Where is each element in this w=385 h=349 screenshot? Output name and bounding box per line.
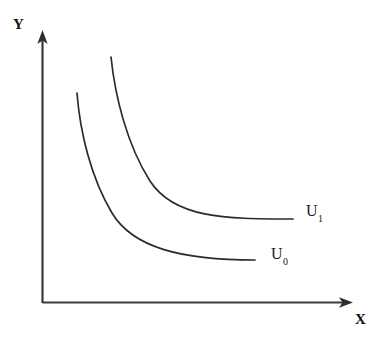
curve-label-u0-subscript: 0	[283, 256, 288, 267]
y-axis	[37, 30, 47, 303]
chart-canvas	[0, 0, 385, 349]
curve-label-u1-subscript: 1	[318, 213, 323, 224]
y-axis-label: Y	[13, 17, 24, 32]
curve-u1	[111, 57, 293, 219]
curve-label-u1: U1	[306, 203, 323, 222]
curve-u0	[77, 93, 255, 260]
curve-label-u0: U0	[271, 246, 288, 265]
x-axis	[43, 297, 354, 307]
curve-label-u0-base: U	[271, 245, 283, 262]
x-axis-label: X	[355, 312, 366, 327]
indifference-curve-figure: Y X U1 U0	[0, 0, 385, 349]
curve-label-u1-base: U	[306, 202, 318, 219]
